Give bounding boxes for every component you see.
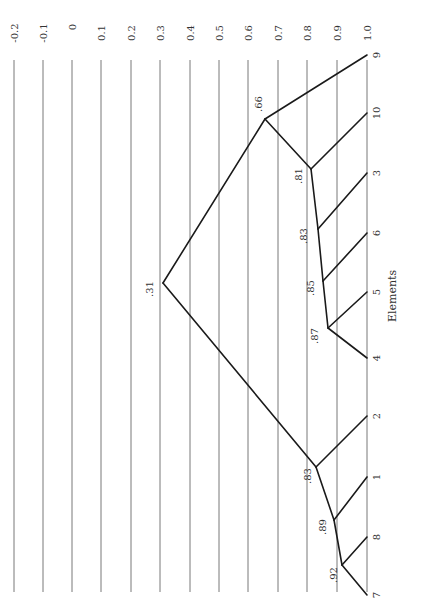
branch-line bbox=[323, 281, 328, 328]
merge-value-label: .85 bbox=[305, 280, 316, 296]
branch-line bbox=[342, 537, 367, 565]
element-label: 1 bbox=[371, 474, 382, 480]
branch-line bbox=[334, 520, 342, 565]
element-label: 2 bbox=[371, 413, 382, 419]
tick-label: -0.2 bbox=[9, 23, 20, 42]
merge-value-label: .81 bbox=[293, 168, 304, 184]
branch-line bbox=[311, 113, 367, 169]
element-label: 7 bbox=[371, 592, 382, 598]
branch-line bbox=[316, 416, 367, 467]
tick-label: 0.6 bbox=[243, 25, 254, 41]
similarity-tick-labels: -0.2-0.100.10.20.30.40.50.60.70.80.91.0 bbox=[9, 23, 373, 42]
branch-line bbox=[342, 565, 367, 595]
element-label: 8 bbox=[371, 534, 382, 540]
element-label: 5 bbox=[371, 289, 382, 295]
element-labels: 91036542187 bbox=[371, 52, 382, 598]
merge-value-label: .89 bbox=[317, 519, 328, 535]
tick-label: 0.4 bbox=[185, 25, 196, 41]
tick-label: 0.9 bbox=[332, 25, 343, 41]
tick-label: 0.2 bbox=[126, 25, 137, 41]
merge-value-label: .92 bbox=[328, 567, 339, 583]
tick-label: 0.3 bbox=[155, 25, 166, 41]
element-label: 9 bbox=[371, 52, 382, 58]
merge-value-label: .83 bbox=[298, 228, 309, 244]
branch-line bbox=[328, 328, 367, 358]
tick-label: 0.5 bbox=[214, 25, 225, 41]
branch-line bbox=[163, 283, 316, 467]
branch-line bbox=[265, 55, 367, 119]
branch-line bbox=[334, 477, 367, 520]
merge-value-label: .31 bbox=[144, 281, 155, 297]
merge-value-label: .66 bbox=[253, 96, 264, 112]
tick-label: 0.7 bbox=[273, 25, 284, 41]
dendrogram-chart: -0.2-0.100.10.20.30.40.50.60.70.80.91.0 … bbox=[0, 0, 421, 604]
merge-value-label: .87 bbox=[309, 328, 320, 344]
element-label: 4 bbox=[371, 355, 382, 361]
dendrogram-branches bbox=[163, 55, 367, 595]
merge-value-label: .83 bbox=[302, 468, 313, 484]
x-axis-title: Elements bbox=[386, 270, 399, 323]
branch-line bbox=[328, 292, 367, 328]
tick-label: 0.1 bbox=[96, 25, 107, 41]
branch-line bbox=[316, 467, 334, 520]
branch-line bbox=[318, 229, 323, 281]
tick-label: 0 bbox=[67, 24, 78, 30]
branch-line bbox=[311, 169, 318, 229]
tick-label: 1.0 bbox=[362, 25, 373, 41]
element-label: 10 bbox=[371, 107, 382, 120]
similarity-gridlines bbox=[14, 60, 367, 592]
element-label: 3 bbox=[371, 170, 382, 176]
branch-line bbox=[265, 119, 311, 169]
tick-label: 0.8 bbox=[302, 25, 313, 41]
merge-value-labels: .87.85.83.81.66.92.89.83.31 bbox=[144, 96, 339, 583]
branch-line bbox=[323, 233, 367, 281]
tick-label: -0.1 bbox=[38, 23, 49, 42]
branch-line bbox=[318, 173, 367, 229]
element-label: 6 bbox=[371, 230, 382, 236]
branch-line bbox=[163, 119, 265, 283]
